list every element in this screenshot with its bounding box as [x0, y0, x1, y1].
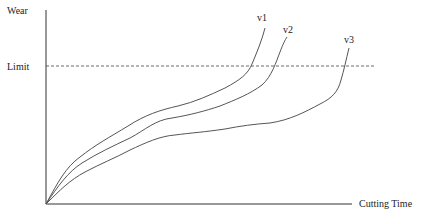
curve-label-v3: v3 — [344, 35, 354, 45]
limit-label: Limit — [7, 62, 29, 72]
curve-label-v2: v2 — [283, 25, 293, 35]
curve-label-v1: v1 — [257, 13, 267, 23]
curve-v2 — [46, 37, 287, 204]
curve-v3 — [46, 48, 349, 204]
curve-v1 — [46, 28, 265, 204]
x-axis-label: Cutting Time — [359, 199, 412, 209]
tool-wear-diagram: Wear Limit Cutting Time v1 v2 v3 — [0, 0, 422, 218]
diagram-canvas — [0, 0, 422, 218]
y-axis-label: Wear — [7, 6, 28, 16]
